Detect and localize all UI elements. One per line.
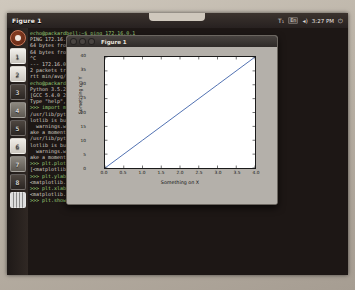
panel-window-title: Figure 1 bbox=[7, 17, 42, 24]
launcher-item-app-5[interactable]: 5 bbox=[10, 120, 26, 136]
figure-toolbar[interactable] bbox=[67, 195, 277, 204]
x-tick-label: 1.0 bbox=[132, 171, 152, 175]
launcher-item-app-8[interactable]: 8 bbox=[10, 174, 26, 190]
x-tick-label: 1.5 bbox=[151, 171, 171, 175]
plot-axes bbox=[104, 56, 256, 169]
ubuntu-desktop: Figure 1 T₁ En ◂) 3:27 PM ⏻ 1 2 3 4 5 6 … bbox=[7, 13, 348, 275]
launcher-item-app-2[interactable]: 2 bbox=[10, 66, 26, 82]
plot-svg bbox=[105, 57, 255, 168]
y-tick-label: 10 bbox=[66, 139, 86, 143]
y-tick-label: 5 bbox=[66, 153, 86, 157]
figure-titlebar[interactable]: Figure 1 bbox=[67, 36, 277, 47]
x-tick-label: 4.0 bbox=[246, 171, 266, 175]
x-tick-label: 2.0 bbox=[170, 171, 190, 175]
y-tick-label: 0 bbox=[66, 167, 86, 171]
maximize-icon[interactable] bbox=[88, 38, 95, 45]
screenshot-root: Figure 1 T₁ En ◂) 3:27 PM ⏻ 1 2 3 4 5 6 … bbox=[0, 0, 355, 290]
x-tick-label: 3.0 bbox=[208, 171, 228, 175]
clock-indicator[interactable]: 3:27 PM bbox=[312, 18, 334, 24]
volume-icon[interactable]: ◂) bbox=[302, 18, 307, 24]
session-icon[interactable]: ⏻ bbox=[338, 18, 343, 24]
data-series-line bbox=[105, 57, 255, 168]
x-tick-label: 0.5 bbox=[113, 171, 133, 175]
close-icon[interactable] bbox=[70, 38, 77, 45]
screen-notch bbox=[149, 13, 205, 21]
launcher-item-app-4[interactable]: 4 bbox=[10, 102, 26, 118]
x-tick-label: 3.5 bbox=[227, 171, 247, 175]
x-tick-label: 2.5 bbox=[189, 171, 209, 175]
unity-launcher: 1 2 3 4 5 6 7 8 bbox=[7, 28, 28, 275]
launcher-item-dash-home[interactable] bbox=[10, 30, 26, 46]
figure-canvas: 0510152025303540 0.00.51.01.52.02.53.03.… bbox=[67, 47, 277, 204]
indicator-tray: T₁ En ◂) 3:27 PM ⏻ bbox=[278, 17, 348, 24]
y-axis-label: Something on Y bbox=[79, 65, 84, 125]
launcher-item-app-7[interactable]: 7 bbox=[10, 156, 26, 172]
network-icon[interactable]: En bbox=[288, 17, 298, 24]
keyboard-layout-icon[interactable]: T₁ bbox=[278, 18, 284, 24]
minimize-icon[interactable] bbox=[79, 38, 86, 45]
launcher-item-workspace-switcher[interactable] bbox=[10, 192, 26, 208]
launcher-item-app-3[interactable]: 3 bbox=[10, 84, 26, 100]
y-tick-label: 40 bbox=[66, 54, 86, 58]
matplotlib-figure-window[interactable]: Figure 1 0510152025303540 0.00.51.01.52.… bbox=[66, 35, 278, 205]
x-tick-label: 0.0 bbox=[94, 171, 114, 175]
launcher-item-app-6[interactable]: 6 bbox=[10, 138, 26, 154]
figure-window-title: Figure 1 bbox=[101, 39, 127, 45]
launcher-item-app-1[interactable]: 1 bbox=[10, 48, 26, 64]
x-axis-label: Something on X bbox=[104, 181, 256, 186]
